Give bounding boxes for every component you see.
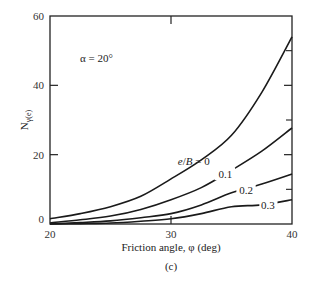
x-tick-label: 40: [287, 228, 299, 240]
alpha-annotation: α = 20°: [80, 52, 113, 64]
chart-figure: 0204060203040 e/B = 00.10.20.3 α = 20° F…: [0, 0, 309, 293]
curve-label: 0.3: [261, 199, 275, 211]
y-axis-label-subscript: γ(e): [24, 109, 33, 123]
y-tick-label: 0: [39, 213, 45, 225]
y-axis-label: Nγ(e): [18, 109, 33, 130]
curve-label: e/B = 0: [178, 155, 210, 167]
x-tick-label: 20: [45, 228, 57, 240]
y-axis-label-main: N: [18, 122, 30, 130]
y-axis-label-text: Nγ(e): [18, 109, 33, 130]
y-tick-label: 40: [33, 79, 45, 91]
y-tick-label: 60: [33, 10, 45, 22]
x-tick-label: 30: [166, 228, 178, 240]
curve-labels: e/B = 00.10.20.3: [178, 155, 278, 210]
curve-eb-0-1: [50, 128, 292, 223]
y-tick-label: 20: [33, 149, 45, 161]
curve-label: 0.1: [219, 168, 233, 180]
figure-caption: (c): [165, 260, 178, 273]
x-axis-label: Friction angle, φ (deg): [121, 241, 221, 254]
curve-label: 0.2: [239, 184, 253, 196]
